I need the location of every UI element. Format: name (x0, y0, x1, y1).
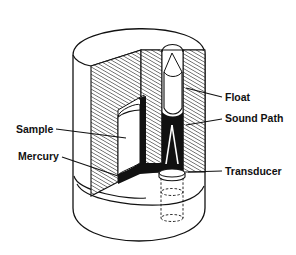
transducer (159, 169, 185, 222)
label-mercury: Mercury (18, 150, 59, 162)
label-float: Float (225, 91, 251, 103)
cell-diagram: Float Sound Path Sample Mercury Transduc… (0, 0, 296, 255)
hatched-wall-right (183, 50, 205, 172)
label-transducer: Transducer (225, 165, 282, 177)
label-sample: Sample (16, 123, 54, 135)
sound-path-fill (162, 112, 183, 172)
label-sound-path: Sound Path (225, 112, 283, 124)
float-bore (162, 45, 183, 173)
